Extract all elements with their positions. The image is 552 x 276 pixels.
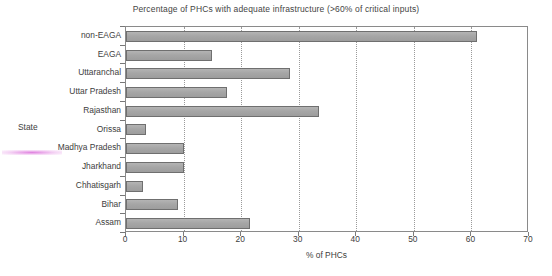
y-axis-label: Rajasthan <box>83 101 121 120</box>
bar-row <box>126 196 527 215</box>
bar-madhya-pradesh <box>126 143 184 154</box>
x-axis-tick <box>240 232 241 236</box>
y-axis-tick <box>120 213 125 214</box>
bar-row <box>126 214 527 233</box>
y-axis-tick <box>120 195 125 196</box>
y-axis-label: Uttaranchal <box>78 63 121 82</box>
bar-jharkhand <box>126 162 184 173</box>
x-axis-tick <box>528 232 529 236</box>
y-axis-label: Jharkhand <box>82 157 121 176</box>
y-axis-label: Orissa <box>97 120 121 139</box>
plot-area <box>125 26 528 232</box>
y-axis-label: Chhatisgarh <box>76 176 121 195</box>
y-axis-tick <box>120 45 125 46</box>
bar-row <box>126 64 527 83</box>
y-axis-tick <box>120 82 125 83</box>
y-axis-tick <box>120 120 125 121</box>
y-axis-tick <box>120 157 125 158</box>
bar-chhatisgarh <box>126 181 143 192</box>
bar-uttar-pradesh <box>126 87 227 98</box>
y-axis-tick <box>120 138 125 139</box>
bar-uttaranchal <box>126 68 290 79</box>
bar-row <box>126 102 527 121</box>
bar-row <box>126 46 527 65</box>
y-axis-label: Uttar Pradesh <box>69 82 121 101</box>
bar-bihar <box>126 199 178 210</box>
x-axis-labels: 010203040506070 <box>0 234 552 246</box>
bar-row <box>126 27 527 46</box>
bars-container <box>126 27 527 231</box>
x-axis-tick <box>355 232 356 236</box>
bar-rajasthan <box>126 106 319 117</box>
bar-orissa <box>126 124 146 135</box>
bar-non-eaga <box>126 31 477 42</box>
bar-row <box>126 83 527 102</box>
y-axis-tick <box>120 101 125 102</box>
bar-chart: Percentage of PHCs with adequate infrast… <box>0 0 552 276</box>
y-axis-label: Bihar <box>101 195 121 214</box>
x-axis-tick <box>470 232 471 236</box>
bar-assam <box>126 218 250 229</box>
y-axis-tick <box>120 63 125 64</box>
x-axis-tick <box>413 232 414 236</box>
y-axis-label: non-EAGA <box>81 26 121 45</box>
bar-row <box>126 177 527 196</box>
bar-row <box>126 158 527 177</box>
y-axis-labels: AssamBiharChhatisgarhJharkhandMadhya Pra… <box>0 26 121 232</box>
bar-row <box>126 139 527 158</box>
y-axis-tick <box>120 26 125 27</box>
x-axis-tick <box>298 232 299 236</box>
y-axis-label: Assam <box>95 213 121 232</box>
x-axis-title: % of PHCs <box>125 250 528 260</box>
bar-row <box>126 121 527 140</box>
bar-eaga <box>126 50 212 61</box>
x-axis-tick <box>183 232 184 236</box>
x-axis-tick <box>125 232 126 236</box>
y-axis-tick <box>120 176 125 177</box>
y-axis-label: Madhya Pradesh <box>58 138 121 157</box>
y-axis-label: EAGA <box>98 45 121 64</box>
chart-title: Percentage of PHCs with adequate infrast… <box>0 4 552 14</box>
